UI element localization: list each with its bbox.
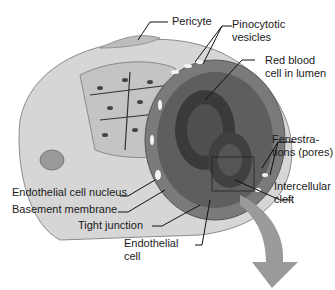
label-fenestrations-1: Fenestra- [272,133,319,146]
label-tight-junction: Tight junction [78,219,143,232]
label-endothelial-nucleus: Endothelial cell nucleus [12,186,127,199]
label-red-blood-cell-2: cell in lumen [265,67,326,80]
label-intercellular-cleft-2: cleft [274,193,294,206]
label-basement-membrane: Basement membrane [12,203,117,216]
label-fenestrations-2: tions (pores) [272,146,333,159]
label-intercellular-cleft-1: Intercellular [274,180,331,193]
label-endothelial-cell-2: cell [124,250,141,263]
capillary-diagram: Pericyte Pinocytotic vesicles Red blood … [0,0,335,290]
label-pericyte: Pericyte [172,15,212,28]
label-pinocytotic-vesicles-1: Pinocytotic [232,18,285,31]
label-pinocytotic-vesicles-2: vesicles [232,31,271,44]
label-endothelial-cell-1: Endothelial [124,237,178,250]
label-red-blood-cell-1: Red blood [265,54,315,67]
